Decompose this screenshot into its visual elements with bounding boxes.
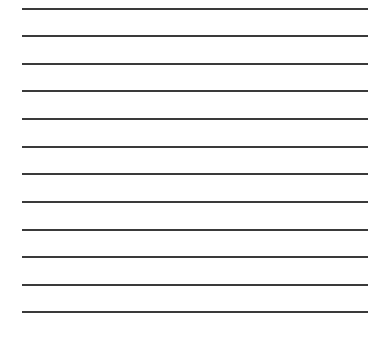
ruled-line [22,8,368,10]
ruled-line [22,63,368,65]
ruled-line [22,90,368,92]
ruled-line [22,35,368,37]
ruled-line [22,118,368,120]
ruled-line [22,173,368,175]
ruled-line [22,146,368,148]
ruled-line [22,284,368,286]
ruled-line [22,311,368,313]
ruled-line [22,229,368,231]
lined-paper [0,0,392,347]
ruled-line [22,201,368,203]
ruled-line [22,256,368,258]
